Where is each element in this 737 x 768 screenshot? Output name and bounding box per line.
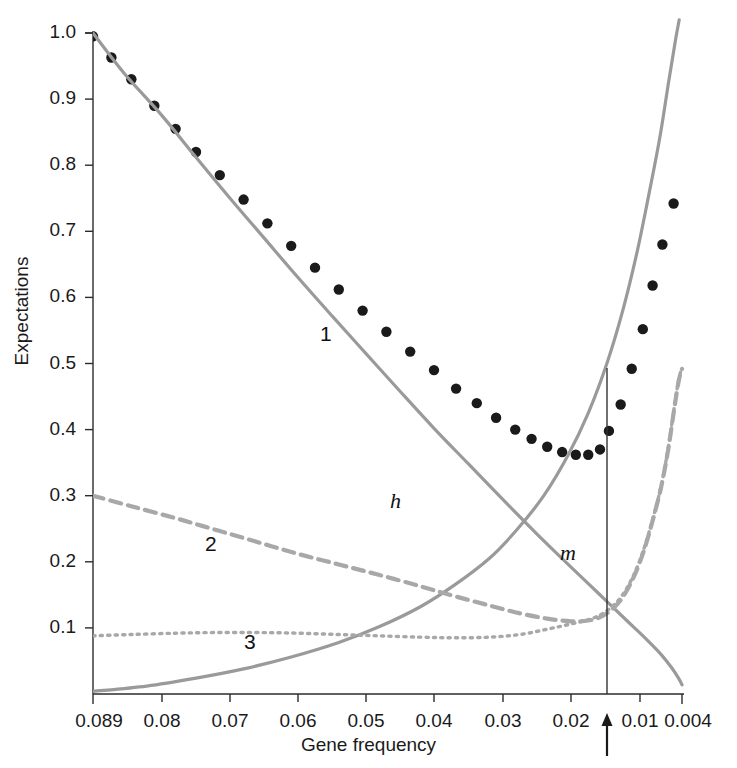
- gene-frequency-expectations-chart: Expectations Gene frequency 0.10.20.30.4…: [0, 0, 737, 768]
- data-point: [627, 364, 637, 374]
- curve-label-3: 3: [244, 630, 256, 654]
- curve-label-m: m: [560, 540, 576, 566]
- data-point: [647, 280, 657, 290]
- data-point: [405, 346, 415, 356]
- data-point: [657, 239, 667, 249]
- y-tick-label: 0.2: [8, 550, 76, 572]
- x-tick-label: 0.004: [648, 710, 728, 732]
- data-point: [429, 365, 439, 375]
- data-point: [595, 444, 605, 454]
- data-point: [638, 324, 648, 334]
- y-tick-label: 0.4: [8, 418, 76, 440]
- data-point: [583, 450, 593, 460]
- data-point: [604, 426, 614, 436]
- data-point: [668, 198, 678, 208]
- data-point: [381, 327, 391, 337]
- data-point: [310, 262, 320, 272]
- curve-line: [93, 20, 679, 692]
- data-point: [510, 424, 520, 434]
- x-tick-label: 0.04: [394, 710, 474, 732]
- y-tick-label: 0.9: [8, 87, 76, 109]
- curve-line: [93, 33, 682, 685]
- curve-line: [93, 367, 682, 637]
- data-point: [472, 398, 482, 408]
- y-tick-label: 0.1: [8, 616, 76, 638]
- data-point: [451, 383, 461, 393]
- data-point: [215, 170, 225, 180]
- y-tick-label: 0.5: [8, 352, 76, 374]
- x-axis-title: Gene frequency: [0, 734, 737, 756]
- data-point: [526, 434, 536, 444]
- y-tick-label: 0.7: [8, 219, 76, 241]
- curve-label-1: 1: [320, 322, 332, 346]
- data-point: [262, 218, 272, 228]
- y-tick-label: 0.8: [8, 153, 76, 175]
- data-point: [557, 447, 567, 457]
- curve-label-2: 2: [205, 532, 217, 556]
- data-point: [542, 442, 552, 452]
- y-tick-label: 0.3: [8, 484, 76, 506]
- chart-canvas: [0, 0, 737, 768]
- curve-line: [93, 369, 682, 622]
- series-m: [93, 20, 679, 692]
- y-tick-label: 0.6: [8, 285, 76, 307]
- series-2: [93, 369, 682, 622]
- data-point: [571, 450, 581, 460]
- data-point: [334, 284, 344, 294]
- series-group: [88, 20, 682, 692]
- data-point: [491, 413, 501, 423]
- data-point: [357, 305, 367, 315]
- x-tick-label: 0.02: [531, 710, 611, 732]
- data-point: [238, 194, 248, 204]
- series-3: [93, 367, 682, 637]
- data-point: [615, 399, 625, 409]
- y-tick-label: 1.0: [8, 21, 76, 43]
- data-point: [286, 241, 296, 251]
- series-h: [93, 33, 682, 685]
- series-1: [88, 31, 679, 460]
- curve-label-h: h: [390, 488, 401, 514]
